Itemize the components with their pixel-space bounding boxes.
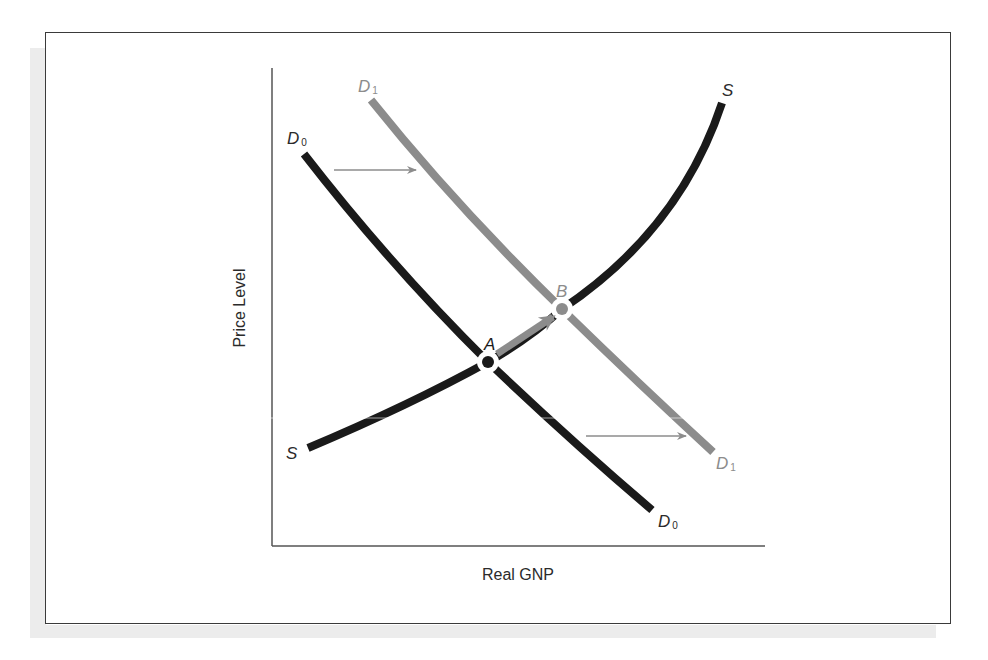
label-s-bottom: S: [286, 444, 298, 463]
label-d1-top: D1: [358, 77, 378, 96]
aggregate-supply-demand-diagram: D1 D0 S S D1 D0 A B: [0, 0, 988, 660]
equilibrium-move-arrow: [497, 317, 553, 354]
label-point-b: B: [556, 282, 567, 301]
demand-curve-d0: [304, 154, 652, 510]
label-point-a: A: [483, 335, 495, 354]
label-d0-bottom: D0: [658, 512, 678, 531]
supply-curve-s: [308, 103, 722, 448]
equilibrium-point-a: [482, 356, 494, 368]
label-d1-bottom: D1: [716, 454, 736, 473]
label-d0-top: D0: [287, 129, 307, 148]
label-s-top: S: [722, 81, 734, 100]
y-axis-label: Price Level: [231, 268, 249, 347]
equilibrium-point-b: [556, 303, 568, 315]
x-axis-label: Real GNP: [482, 566, 554, 584]
